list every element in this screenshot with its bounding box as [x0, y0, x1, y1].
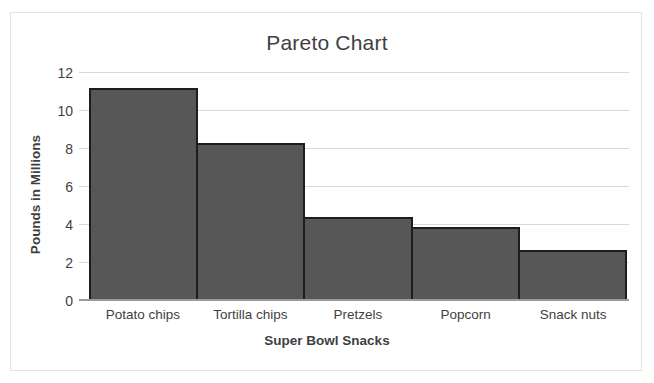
- bar: [89, 88, 198, 301]
- x-axis-line: [79, 299, 629, 301]
- x-tick-label: Potato chips: [89, 307, 197, 322]
- chart-title: Pareto Chart: [11, 31, 643, 55]
- x-tick-label: Popcorn: [412, 307, 520, 322]
- chart-frame: Pareto Chart Pounds in Millions 02468101…: [10, 12, 642, 371]
- y-tick-label-10: 10: [57, 103, 73, 119]
- y-axis-tick-labels: 024681012: [39, 73, 73, 301]
- plot-area: [79, 73, 629, 301]
- bar: [411, 227, 520, 301]
- x-axis-tick-labels: Potato chipsTortilla chipsPretzelsPopcor…: [89, 307, 627, 322]
- bar: [518, 250, 627, 301]
- y-tick-label-2: 2: [65, 255, 73, 271]
- y-tick-label-12: 12: [57, 65, 73, 81]
- y-tick-label-4: 4: [65, 217, 73, 233]
- y-tick-label-0: 0: [65, 293, 73, 309]
- x-tick-label: Tortilla chips: [197, 307, 305, 322]
- x-tick-label: Snack nuts: [519, 307, 627, 322]
- bar: [303, 217, 412, 301]
- y-tick-label-8: 8: [65, 141, 73, 157]
- bar-series: [89, 73, 627, 301]
- y-tick-label-6: 6: [65, 179, 73, 195]
- bar: [196, 143, 305, 301]
- x-tick-label: Pretzels: [304, 307, 412, 322]
- x-axis-title: Super Bowl Snacks: [11, 333, 643, 348]
